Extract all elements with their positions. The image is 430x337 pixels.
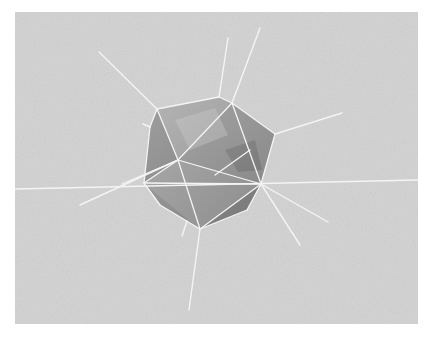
- image-stage: [0, 0, 430, 337]
- polyhedron-render: [0, 0, 430, 337]
